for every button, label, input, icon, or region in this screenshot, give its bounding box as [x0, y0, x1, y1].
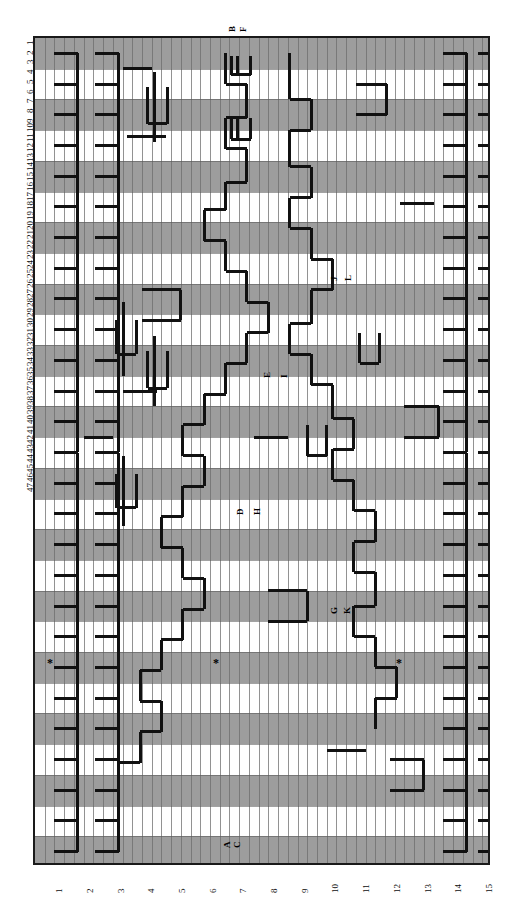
trace-segment: [204, 239, 225, 242]
trace-segment: [226, 83, 247, 86]
marker-label-h: H: [253, 508, 262, 515]
gridline-horizontal: [35, 345, 488, 346]
trace-segment: [153, 72, 156, 143]
trace-segment: [290, 165, 311, 168]
trace-segment: [135, 474, 138, 508]
trace-segment: [183, 608, 204, 611]
trace-segment: [422, 760, 425, 791]
trace-segment: [183, 454, 204, 457]
trace-segment: [117, 53, 120, 84]
trace-segment: [166, 87, 169, 124]
axis-tick-row-8: 8: [270, 889, 279, 894]
trace-segment: [76, 207, 79, 238]
trace-segment: [127, 135, 166, 138]
trace-segment: [76, 514, 79, 545]
gridline-horizontal: [35, 529, 488, 530]
trace-segment: [117, 637, 120, 668]
trace-segment: [404, 436, 438, 439]
trace-segment: [54, 420, 77, 423]
trace-segment: [465, 821, 468, 852]
trace-segment: [54, 359, 77, 362]
trace-segment: [385, 84, 388, 115]
trace-segment: [443, 727, 466, 730]
trace-segment: [117, 821, 120, 852]
trace-segment: [117, 545, 120, 576]
axis-tick-row-9: 9: [301, 889, 310, 894]
trace-segment: [95, 666, 118, 669]
trace-segment: [310, 228, 313, 259]
trace-segment: [95, 267, 118, 270]
axis-tick-row-15: 15: [485, 884, 494, 893]
trace-segment: [290, 196, 311, 199]
trace-segment: [76, 545, 79, 576]
trace-segment: [76, 790, 79, 821]
trace-segment: [203, 578, 206, 609]
asterisk-marker: *: [396, 657, 402, 669]
trace-segment: [139, 732, 142, 763]
trace-segment: [395, 667, 398, 698]
trace-segment: [288, 198, 291, 229]
trace-segment: [117, 391, 120, 422]
trace-segment: [374, 511, 377, 542]
trace-segment: [333, 479, 354, 482]
trace-segment: [478, 666, 490, 669]
trace-segment: [443, 297, 466, 300]
trace-segment: [123, 67, 152, 70]
trace-segment: [54, 666, 77, 669]
trace-segment: [331, 259, 334, 290]
trace-segment: [76, 606, 79, 637]
trace-segment: [352, 606, 355, 637]
trace-segment: [478, 758, 490, 761]
trace-segment: [360, 362, 379, 365]
trace-segment: [54, 236, 77, 239]
trace-segment: [443, 144, 466, 147]
trace-segment: [161, 638, 182, 641]
trace-segment: [160, 701, 163, 732]
trace-segment: [224, 241, 227, 272]
trace-segment: [224, 53, 227, 84]
trace-segment: [374, 637, 377, 668]
trace-segment: [465, 268, 468, 299]
trace-segment: [465, 360, 468, 391]
trace-segment: [478, 390, 490, 393]
trace-segment: [54, 605, 77, 608]
trace-segment: [117, 514, 120, 545]
trace-segment: [95, 758, 118, 761]
trace-segment: [310, 354, 313, 385]
trace-segment: [54, 635, 77, 638]
trace-segment: [139, 670, 142, 701]
trace-segment: [76, 238, 79, 269]
trace-segment: [465, 760, 468, 791]
trace-segment: [245, 149, 248, 183]
trace-segment: [478, 512, 490, 515]
trace-segment: [76, 268, 79, 299]
trace-segment: [95, 543, 118, 546]
trace-segment: [148, 122, 167, 125]
trace-segment: [117, 422, 120, 453]
trace-segment: [224, 182, 227, 210]
trace-segment: [231, 73, 250, 76]
trace-segment: [95, 635, 118, 638]
axis-tick-row-14: 14: [454, 884, 463, 893]
trace-segment: [146, 87, 149, 124]
trace-segment: [95, 390, 118, 393]
trace-segment: [331, 385, 334, 419]
asterisk-marker: *: [213, 657, 219, 669]
marker-label-l: L: [344, 275, 353, 281]
trace-segment: [310, 290, 313, 324]
trace-segment: [478, 697, 490, 700]
trace-segment: [204, 208, 225, 211]
trace-segment: [54, 451, 77, 454]
trace-segment: [333, 448, 354, 451]
asterisk-marker: *: [47, 657, 53, 669]
trace-segment: [54, 297, 77, 300]
trace-segment: [465, 606, 468, 637]
trace-segment: [54, 819, 77, 822]
trace-segment: [443, 758, 466, 761]
trace-segment: [54, 175, 77, 178]
trace-segment: [95, 789, 118, 792]
trace-segment: [117, 667, 120, 698]
trace-segment: [356, 113, 387, 116]
trace-segment: [478, 113, 490, 116]
trace-segment: [54, 144, 77, 147]
